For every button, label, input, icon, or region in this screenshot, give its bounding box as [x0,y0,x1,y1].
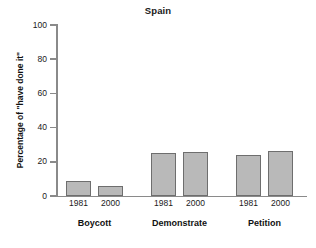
y-tick-mark [50,93,56,95]
bar-demonstrate-1981 [151,153,176,196]
bar-demonstrate-2000 [183,152,208,196]
y-tick-mark [50,127,56,129]
group-label-demonstrate: Demonstrate [139,218,220,228]
bar-boycott-2000 [98,186,123,196]
y-axis-title: Percentage of "have done it" [15,20,25,200]
chart-title: Spain [0,5,316,16]
group-label-boycott: Boycott [54,218,135,228]
bar-petition-2000 [268,151,293,196]
year-label-boycott-2000: 2000 [92,198,129,208]
group-label-petition: Petition [224,218,305,228]
year-label-petition-2000: 2000 [262,198,299,208]
y-tick-mark [50,195,56,197]
bar-petition-1981 [236,155,261,196]
y-tick-label: 0 [16,191,47,201]
y-tick-mark [50,58,56,60]
bar-chart: Spain Percentage of "have done it" 02040… [0,0,316,248]
year-label-demonstrate-2000: 2000 [177,198,214,208]
y-tick-label: 40 [16,122,47,132]
y-tick-label: 60 [16,88,47,98]
y-tick-label: 100 [16,20,47,30]
y-tick-label: 20 [16,156,47,166]
y-tick-label: 80 [16,54,47,64]
y-tick-mark [50,161,56,163]
y-tick-mark [50,24,56,26]
bar-boycott-1981 [66,181,91,196]
y-axis-line [56,24,58,197]
